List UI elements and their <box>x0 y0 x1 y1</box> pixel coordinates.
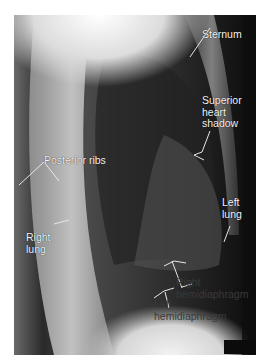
scale-bar <box>224 340 256 354</box>
label-right-lung: Right lung <box>26 232 51 255</box>
label-right-hemidiaphragm: Right hemidiaphragm <box>176 277 248 300</box>
lateral-chest-xray: Sternum Superior heart shadow Posterior … <box>14 15 256 355</box>
label-left-hemidiaphragm: Left hemidiaphragm <box>154 299 226 322</box>
label-posterior-ribs: Posterior ribs <box>44 155 106 167</box>
label-sternum: Sternum <box>202 29 242 41</box>
label-superior-heart-shadow: Superior heart shadow <box>202 95 242 130</box>
label-left-lung: Left lung <box>222 197 242 220</box>
